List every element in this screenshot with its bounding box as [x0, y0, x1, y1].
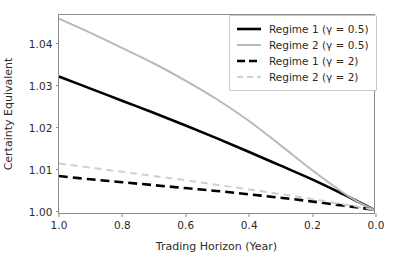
legend-label: Regime 2 (γ = 0.5) [269, 39, 369, 51]
y-tick-mark [56, 43, 60, 44]
x-tick-label: 0.4 [241, 217, 258, 231]
legend-line-swatch [236, 55, 262, 67]
x-tick-label: 0.8 [114, 217, 131, 231]
legend-line-swatch [236, 23, 262, 35]
y-axis-label: Certainty Equivalent [2, 58, 15, 171]
x-axis-tick: 1.0 [51, 213, 68, 231]
legend-label: Regime 1 (γ = 0.5) [269, 23, 369, 35]
y-tick-mark [56, 211, 60, 212]
legend-label: Regime 1 (γ = 2) [269, 55, 358, 67]
chart-figure: Certainty Equivalent 1.001.011.021.031.0… [0, 0, 397, 263]
y-axis-tick: 1.01 [29, 164, 59, 176]
x-axis-label: Trading Horizon (Year) [58, 240, 375, 253]
x-tick-label: 0.6 [177, 217, 194, 231]
y-tick-mark [56, 85, 60, 86]
y-axis-tick: 1.04 [29, 38, 59, 50]
y-axis-tick: 1.03 [29, 80, 59, 92]
y-tick-label: 1.02 [29, 122, 56, 134]
legend-line-swatch [236, 71, 262, 83]
x-axis-tick: 0.6 [177, 213, 194, 231]
y-tick-mark [56, 127, 60, 128]
x-axis-tick: 0.2 [304, 213, 321, 231]
x-axis-tick: 0.4 [241, 213, 258, 231]
legend-item[interactable]: Regime 1 (γ = 0.5) [236, 21, 369, 37]
legend-item[interactable]: Regime 2 (γ = 2) [236, 69, 369, 85]
legend-item[interactable]: Regime 2 (γ = 0.5) [236, 37, 369, 53]
y-tick-label: 1.04 [29, 38, 56, 50]
x-tick-label: 0.0 [368, 217, 385, 231]
x-axis-tick: 0.8 [114, 213, 131, 231]
legend-label: Regime 2 (γ = 2) [269, 71, 358, 83]
legend-line-swatch [236, 39, 262, 51]
legend: Regime 1 (γ = 0.5)Regime 2 (γ = 0.5)Regi… [229, 15, 377, 91]
y-tick-label: 1.01 [29, 164, 56, 176]
legend-item[interactable]: Regime 1 (γ = 2) [236, 53, 369, 69]
y-tick-label: 1.03 [29, 80, 56, 92]
y-tick-mark [56, 169, 60, 170]
x-tick-label: 0.2 [304, 217, 321, 231]
y-axis-tick: 1.02 [29, 122, 59, 134]
x-tick-label: 1.0 [51, 217, 68, 231]
x-axis-tick: 0.0 [368, 213, 385, 231]
